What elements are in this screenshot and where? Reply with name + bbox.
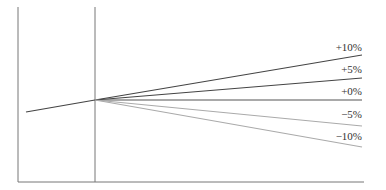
scenario-label: −5% [341, 108, 362, 120]
scenario-lines [95, 55, 362, 147]
scenario-line [95, 100, 362, 126]
scenario-line [95, 100, 362, 147]
scenario-label: +5% [341, 63, 362, 75]
scenario-label: −10% [336, 130, 362, 142]
scenario-fan-chart: +10%+5%+0%−5%−10% [0, 0, 386, 190]
scenario-line [95, 55, 362, 100]
scenario-label: +0% [341, 85, 362, 97]
history-line [26, 100, 95, 112]
scenario-line [95, 78, 362, 100]
scenario-label: +10% [336, 41, 362, 53]
